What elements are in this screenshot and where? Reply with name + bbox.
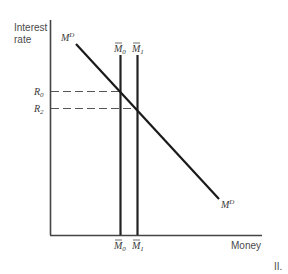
money-market-diagram: Interest rate R0 R2 M0 M1 M0 M1 MD MD Mo… xyxy=(0,0,288,274)
y-axis-label-line1: Interest xyxy=(14,22,48,33)
m0-top-label: M0 xyxy=(113,43,126,56)
m0-bottom-label: M0 xyxy=(113,240,126,253)
money-demand-curve xyxy=(76,44,219,199)
r2-label: R2 xyxy=(33,103,44,116)
panel-label: II. xyxy=(274,261,282,272)
m1-top-label: M1 xyxy=(131,43,144,56)
y-axis-label-line2: rate xyxy=(14,34,32,45)
demand-label-bottom: MD xyxy=(220,198,234,210)
m1-bottom-label: M1 xyxy=(131,240,144,253)
r0-label: R0 xyxy=(33,86,44,99)
x-axis-label: Money xyxy=(231,240,261,251)
demand-label-top: MD xyxy=(60,31,74,43)
